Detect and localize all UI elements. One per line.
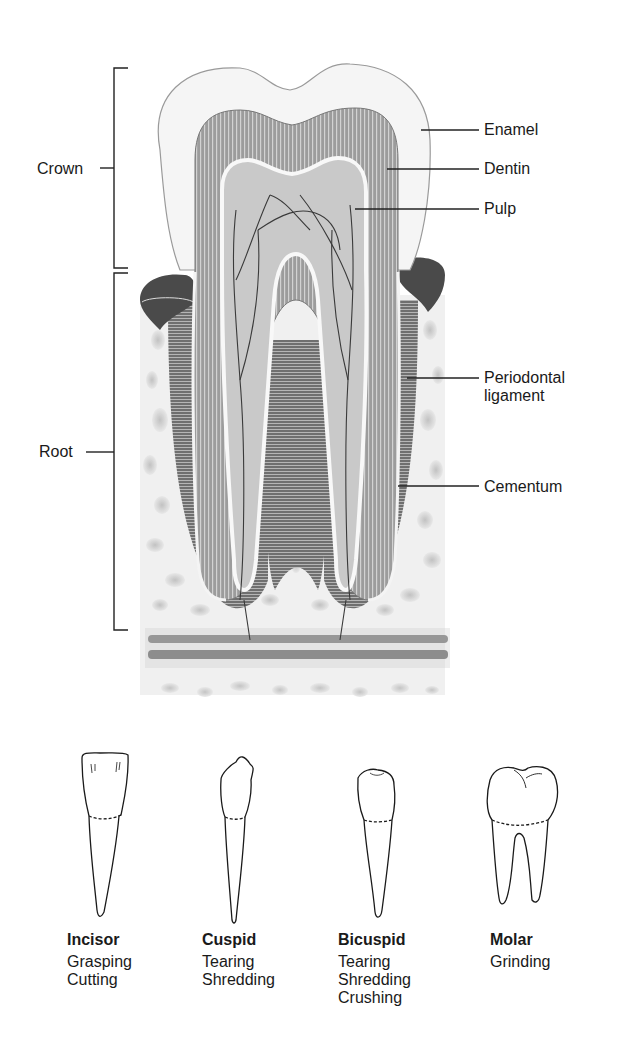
periodontal-label-line1: Periodontal (484, 369, 565, 387)
tooth-cross-section-diagram (0, 0, 628, 720)
root-label: Root (39, 443, 73, 461)
crown-label: Crown (37, 160, 83, 178)
tooth-type-name: Bicuspid (338, 930, 411, 950)
incisor-icon (82, 753, 128, 916)
pulp-label: Pulp (484, 200, 516, 218)
periodontal-label-line2: ligament (484, 387, 565, 405)
tooth-type-incisor: Incisor Grasping Cutting (67, 930, 132, 989)
enamel-label: Enamel (484, 121, 538, 139)
periodontal-ligament-label: Periodontal ligament (484, 369, 565, 405)
root-bracket (86, 273, 128, 630)
tooth-type-name: Cuspid (202, 930, 275, 950)
tooth-function: Crushing (338, 989, 411, 1007)
tooth-function: Grasping (67, 953, 132, 971)
tooth-type-name: Molar (490, 930, 550, 950)
tooth-type-bicuspid: Bicuspid Tearing Shredding Crushing (338, 930, 411, 1007)
cementum-label: Cementum (484, 478, 562, 496)
tooth-function: Shredding (202, 971, 275, 989)
tooth-function: Cutting (67, 971, 132, 989)
cuspid-icon (221, 757, 253, 923)
tooth-types-illustrations (0, 740, 628, 930)
crown-bracket (100, 68, 128, 268)
molar-icon (487, 767, 557, 904)
tooth-function: Shredding (338, 971, 411, 989)
tooth-function: Tearing (338, 953, 411, 971)
tooth-type-cuspid: Cuspid Tearing Shredding (202, 930, 275, 989)
tooth-function: Grinding (490, 953, 550, 971)
bicuspid-icon (358, 769, 395, 917)
tooth-type-name: Incisor (67, 930, 132, 950)
tooth-function: Tearing (202, 953, 275, 971)
tooth-type-molar: Molar Grinding (490, 930, 550, 971)
dentin-label: Dentin (484, 160, 530, 178)
